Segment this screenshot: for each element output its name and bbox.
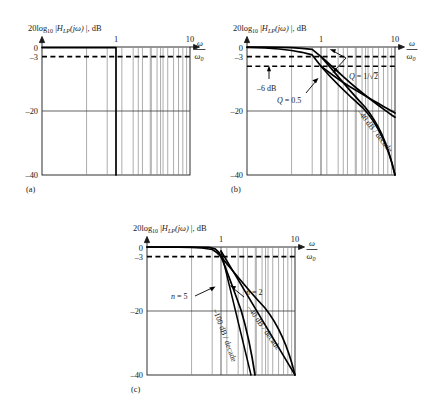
panel-a-y-axis-arrowhead [39,37,44,43]
panel-b-q-half-arrowhead [312,78,318,83]
panel-b-q-half-arrow-line [306,81,316,93]
panel-b-y-axis-arrowhead [244,37,249,43]
panel-c-x-axis-arrowhead [299,245,305,250]
panel-a-svg: 20log10 |HLP(jω) |, dB [0,0,205,200]
panel-a: 20log10 |HLP(jω) |, dB [0,0,205,200]
panel-b-x-axis-label-num: ω [409,39,415,48]
panel-c-x-axis-label: ω ω0 [307,239,318,262]
panel-c-ytick-minus3: –3 [134,253,143,262]
panel-a-caption: (a) [26,185,36,194]
panel-b: 20log10 |HLP(jω) |, dB [205,0,439,200]
panel-b-xtick-10: 10 [391,35,399,44]
panel-b-ytick-minus20: –20 [229,107,243,116]
panel-c-ytick-minus40: –40 [129,371,143,380]
panel-c-n5-arrow-line [195,288,212,296]
panel-c-caption: (c) [131,385,141,394]
panel-c-x-axis-label-num: ω [309,239,315,248]
panel-a-ytick-minus40: –40 [24,171,38,180]
panel-c-xtick-1: 1 [219,235,223,244]
panel-a-ytick-0: 0 [34,44,38,53]
panel-c-annotation-n5: n = 5 [171,292,188,301]
panel-c-ytick-0: 0 [139,244,143,253]
panel-c-ytick-minus20: –20 [129,307,143,316]
panel-a-x-axis-label: ω ω0 [195,39,206,62]
panel-a-x-axis-label-den: ω0 [195,52,204,62]
panel-b-ytick-0: 0 [239,44,243,53]
panel-a-ytick-minus20: –20 [24,107,38,116]
panel-b-annotation-slope-40: –40 dB / decade [355,107,395,154]
panel-b-annotation-q-half: Q = 0.5 [277,96,301,105]
panel-b-svg: 20log10 |HLP(jω) |, dB [205,0,439,200]
panel-a-ytick-minus3: –3 [29,53,38,62]
panel-a-xtick-1: 1 [114,35,118,44]
panel-b-y-axis-title: 20log10 |HLP(jω) |, dB [233,24,307,34]
panel-c-y-axis-arrowhead [144,237,149,243]
panel-c-annotation-slope-100: –100 dB / decade [211,307,239,364]
panel-b-ytick-minus3: –3 [234,53,243,62]
panel-a-xtick-10: 10 [186,35,194,44]
panel-c-x-axis-label-den: ω0 [307,252,316,262]
panel-b-xtick-1: 1 [319,35,323,44]
panel-c-annotation-n2: n = 2 [246,288,263,297]
panel-b-caption: (b) [231,185,241,194]
panel-b-q-butter-arrow-line2 [335,58,346,70]
panel-b-annotation-q-butterworth: Q = 1/√2 [349,72,378,81]
panel-b-annotation-minus6db: –6 dB [256,84,276,93]
panel-a-x-axis-label-num: ω [197,39,203,48]
panel-c: 20log10 |HLP(jω) |, dB [105,200,339,402]
panel-c-svg: 20log10 |HLP(jω) |, dB [105,200,339,402]
panel-b-x-axis-label: ω ω0 [407,39,418,62]
panel-b-curve-q-half-tail [321,66,395,175]
panel-a-y-axis-title: 20log10 |HLP(jω) |, dB [28,24,102,34]
panel-b-q-butter-arrowhead-top [330,49,336,53]
panel-c-y-axis-title: 20log10 |HLP(jω) |, dB [133,224,207,234]
panel-b-x-axis-label-den: ω0 [407,52,416,62]
panel-c-xtick-10: 10 [291,235,299,244]
panel-b-ytick-minus40: –40 [229,171,243,180]
panel-b-x-axis-arrowhead [399,45,405,50]
panel-c-n5-arrowhead [209,286,215,291]
